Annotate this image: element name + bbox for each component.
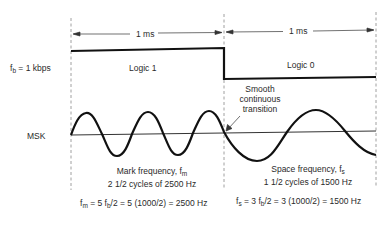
- transition-line-1: Smooth: [228, 84, 292, 94]
- mark-frequency-equation: fm = 5 fb/2 = 5 (1000/2) = 2500 Hz: [80, 198, 207, 211]
- mark-caption-subscript: m: [182, 170, 187, 177]
- transition-pointer: [226, 116, 240, 131]
- mark-eq-result: /2 = 5 (1000/2) = 2500 Hz: [111, 198, 208, 208]
- space-caption-line-2: 1 1/2 cycles of 1500 Hz: [248, 177, 368, 187]
- duration-label-1: 1 ms: [135, 29, 155, 39]
- mark-caption-line-1: Mark frequency, fm: [92, 166, 212, 179]
- transition-line-3: transition: [228, 104, 292, 114]
- bit-rate-value: = 1 kbps: [16, 63, 51, 73]
- duration-label-2: 1 ms: [288, 26, 308, 36]
- space-eq-mid: = 3 f: [242, 196, 261, 206]
- mark-frequency-caption: Mark frequency, fm 2 1/2 cycles of 2500 …: [92, 166, 212, 189]
- transition-annotation: Smooth continuous transition: [228, 84, 292, 114]
- mark-caption-text: Mark frequency, f: [117, 166, 182, 176]
- space-caption-subscript: s: [342, 168, 345, 175]
- msk-waveform: [71, 110, 376, 161]
- mark-eq-mid: = 5 f: [88, 198, 107, 208]
- logic-1-label: Logic 1: [129, 63, 156, 73]
- bit-rate-label: fb = 1 kbps: [10, 63, 51, 76]
- msk-label: MSK: [27, 131, 45, 141]
- space-caption-text: Space frequency, f: [271, 164, 341, 174]
- space-caption-line-1: Space frequency, fs: [248, 164, 368, 177]
- logic-0-label: Logic 0: [287, 60, 314, 70]
- space-eq-result: /2 = 3 (1000/2) = 1500 Hz: [264, 196, 361, 206]
- bit-waveform: [71, 48, 376, 79]
- transition-line-2: continuous: [228, 94, 292, 104]
- mark-caption-line-2: 2 1/2 cycles of 2500 Hz: [92, 179, 212, 189]
- space-frequency-caption: Space frequency, fs 1 1/2 cycles of 1500…: [248, 164, 368, 187]
- space-frequency-equation: fs = 3 fb/2 = 3 (1000/2) = 1500 Hz: [236, 196, 361, 209]
